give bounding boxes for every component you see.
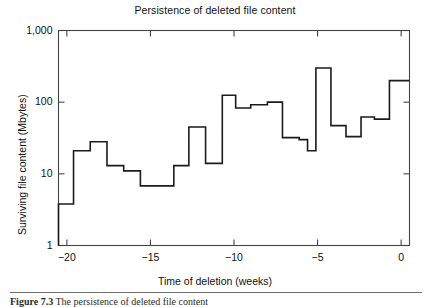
caption-label: Figure 7.3 [10, 296, 53, 307]
axes-group [59, 31, 410, 246]
caption-body: The persistence of deleted file content [55, 296, 207, 307]
figure-caption: Figure 7.3 The persistence of deleted fi… [10, 296, 422, 307]
plot-frame [59, 31, 410, 246]
caption-divider [10, 292, 422, 293]
